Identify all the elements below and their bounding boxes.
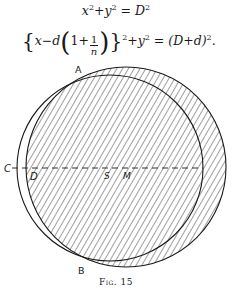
- label-S: S: [104, 171, 110, 181]
- label-D: D: [30, 171, 38, 182]
- circle-M-hatched: [26, 67, 226, 267]
- label-M: M: [123, 171, 131, 181]
- label-A: A: [75, 64, 82, 75]
- figure-caption: Fig. 15: [0, 277, 232, 287]
- label-B: B: [78, 265, 85, 276]
- label-C: C: [4, 163, 11, 174]
- figure-two-circles: A B C D S M: [0, 0, 232, 294]
